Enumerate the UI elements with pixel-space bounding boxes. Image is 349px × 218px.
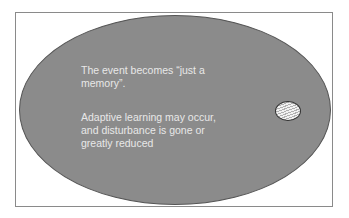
event-memory-text: The event becomes “just a memory”. xyxy=(81,64,221,90)
adaptive-learning-text: Adaptive learning may occur, and disturb… xyxy=(81,111,221,150)
hatched-oval-icon xyxy=(275,101,301,121)
